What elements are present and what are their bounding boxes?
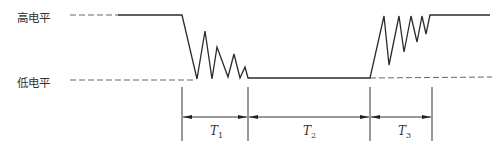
interval-label-t1: T1 [210,124,223,140]
arrow-right-icon [360,115,369,119]
bounce-timing-diagram: 高电平 低电平 T1 T2 T3 [0,0,504,153]
arrow-left-icon [371,115,380,119]
arrow-left-icon [183,115,192,119]
dimension-t3 [371,115,431,119]
signal-waveform [118,15,490,79]
dimension-t1 [183,115,247,119]
high-level-label: 高电平 [17,11,50,25]
low-level-label: 低电平 [17,76,50,90]
arrow-right-icon [238,115,247,119]
interval-label-t3: T3 [398,124,411,140]
arrow-left-icon [249,115,258,119]
arrow-right-icon [422,115,431,119]
dimension-t2 [249,115,369,119]
low-level-reference-line-right [370,77,492,78]
interval-label-t2: T2 [303,124,316,140]
